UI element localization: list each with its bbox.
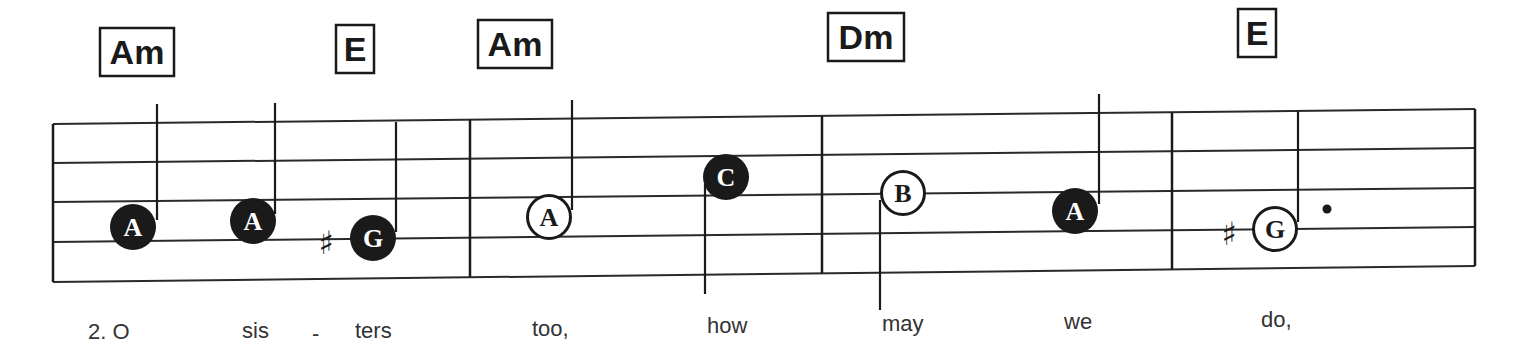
staff-line (53, 148, 1475, 163)
staff-line (53, 188, 1475, 202)
chord-symbol: Dm (828, 13, 904, 61)
note-a: A (230, 103, 276, 244)
sharp-icon: ♯ (318, 224, 333, 262)
lyric-syllable: ters (355, 318, 392, 343)
note-letter: G (363, 224, 383, 253)
note-a: A (1052, 94, 1099, 234)
lyric-syllable: sis (242, 318, 269, 343)
chord-symbol: Am (478, 20, 552, 68)
music-score: AmEAmDmE AAG♯ACBAG♯ 2. Osis-terstoo,howm… (0, 0, 1533, 363)
lyric-syllable: may (882, 311, 924, 336)
note-letter: G (1265, 215, 1285, 244)
lyric-syllable: - (312, 321, 319, 346)
dot-icon (1323, 205, 1332, 214)
lyric-syllable: too, (532, 316, 569, 341)
lyric-syllable: how (707, 313, 747, 338)
note-a: A (528, 100, 573, 239)
lyric-syllable: do, (1261, 307, 1292, 332)
chord-symbol: E (336, 25, 374, 73)
note-letter: B (894, 179, 911, 208)
chord-label: Am (488, 25, 543, 63)
staff-line (53, 266, 1475, 282)
chord-symbol: Am (100, 28, 174, 76)
lyric-syllable: 2. O (88, 319, 130, 344)
lyrics: 2. Osis-terstoo,howmaywedo, (88, 307, 1292, 346)
note-letter: C (717, 163, 736, 192)
chord-label: E (1246, 14, 1269, 52)
note-c: C (703, 154, 749, 294)
note-letter: A (540, 203, 559, 232)
chord-label: Dm (839, 18, 894, 56)
note-g: G♯ (318, 122, 396, 262)
lyric-syllable: we (1063, 309, 1092, 334)
chord-symbol: E (1238, 9, 1276, 57)
note-g: G♯ (1221, 111, 1331, 253)
note-letter: A (244, 207, 263, 236)
note-letter: A (124, 213, 143, 242)
note-a: A (110, 104, 157, 250)
note-letter: A (1066, 197, 1085, 226)
chord-label: E (344, 30, 367, 68)
sharp-icon: ♯ (1221, 215, 1236, 253)
chord-label: Am (110, 33, 165, 71)
notes: AAG♯ACBAG♯ (110, 94, 1332, 310)
staff (53, 109, 1475, 282)
chord-symbols: AmEAmDmE (100, 9, 1276, 76)
note-b: B (880, 172, 925, 311)
staff-line (53, 109, 1475, 124)
